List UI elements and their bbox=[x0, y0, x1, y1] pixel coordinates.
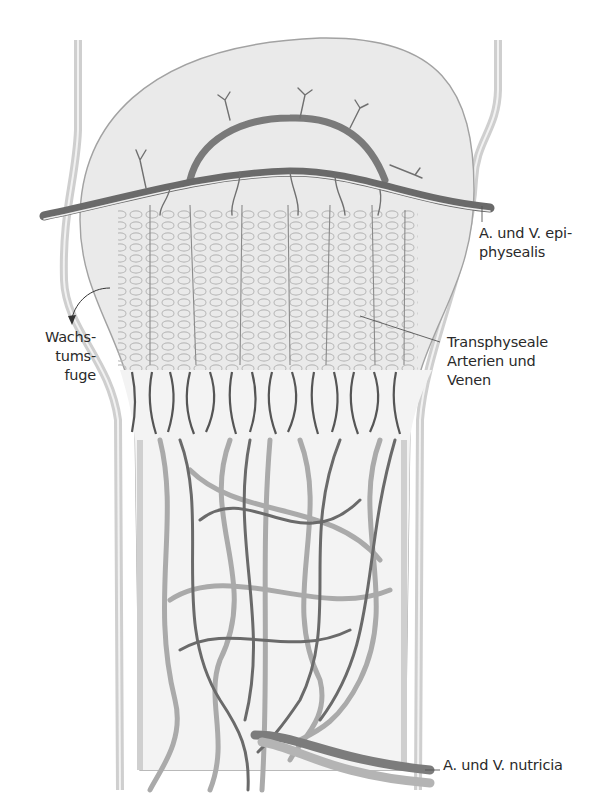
bone-vascular-diagram bbox=[0, 0, 611, 800]
label-line: A. und V. nutricia bbox=[443, 756, 563, 775]
label-wachstumsfuge: Wachs- tums- fuge bbox=[14, 328, 96, 385]
label-transphyseale-arterien-venen: Transphyseale Arterien und Venen bbox=[447, 333, 548, 390]
label-line: Venen bbox=[447, 371, 548, 390]
label-line: Arterien und bbox=[447, 352, 548, 371]
label-line: Transphyseale bbox=[447, 333, 548, 352]
label-a-v-epiphysealis: A. und V. epi- physealis bbox=[479, 224, 572, 262]
label-line: A. und V. epi- bbox=[479, 224, 572, 243]
label-line: fuge bbox=[14, 366, 96, 385]
label-a-v-nutricia: A. und V. nutricia bbox=[443, 756, 563, 775]
growth-plate-columns bbox=[118, 205, 418, 370]
label-line: Wachs- bbox=[14, 328, 96, 347]
label-line: tums- bbox=[14, 347, 96, 366]
label-line: physealis bbox=[479, 243, 572, 262]
